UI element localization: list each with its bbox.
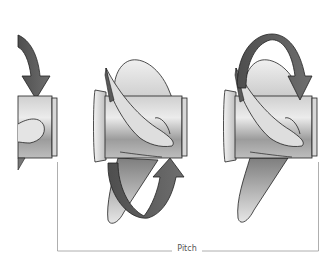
blade-stub-left — [18, 158, 25, 170]
propeller-left — [18, 35, 57, 170]
propeller-pitch-diagram: Pitch — [0, 0, 335, 269]
hub-cap-right — [312, 98, 317, 156]
propeller-middle — [94, 60, 188, 223]
pitch-label: Pitch — [172, 243, 202, 255]
hub-flange-middle — [94, 90, 107, 162]
hub-flange-right — [224, 90, 237, 162]
rotation-arrow-left-icon — [18, 35, 50, 99]
propeller-right — [224, 34, 318, 222]
hub-cap-middle — [182, 98, 187, 156]
hub-cap-left — [52, 98, 57, 156]
pitch-bracket — [58, 162, 319, 251]
blade-lower-right — [238, 158, 288, 222]
